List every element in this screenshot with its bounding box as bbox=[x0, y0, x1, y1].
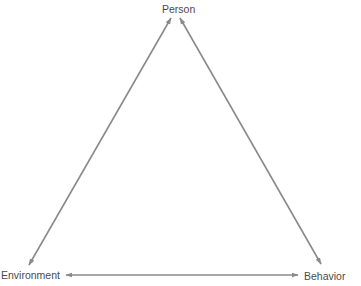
diagram-canvas: Person Environment Behavior bbox=[0, 0, 361, 286]
arrows-layer bbox=[0, 0, 361, 286]
node-label-environment: Environment bbox=[1, 270, 60, 281]
node-label-behavior: Behavior bbox=[304, 271, 345, 282]
node-label-person: Person bbox=[162, 4, 195, 15]
arrow-person-behavior bbox=[180, 18, 321, 264]
arrow-person-environment bbox=[29, 18, 171, 265]
